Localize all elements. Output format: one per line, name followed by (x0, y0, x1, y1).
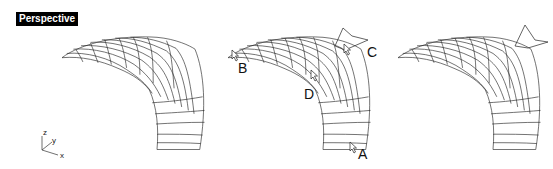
point-label-d: D (304, 86, 314, 102)
point-label-a: A (358, 146, 367, 162)
surface-panel-3 (398, 37, 541, 150)
axis-y-label: y (52, 136, 56, 145)
axis-x-label: x (60, 151, 64, 160)
cursor-icon-d (311, 70, 318, 81)
surface-panel-1 (62, 37, 205, 150)
cursor-icon-c (344, 44, 351, 55)
axis-z-label: z (43, 128, 47, 137)
point-label-c: C (367, 44, 377, 60)
surface-diagram (0, 0, 553, 169)
cursor-icon-a (350, 142, 357, 153)
point-label-b: B (238, 60, 247, 76)
